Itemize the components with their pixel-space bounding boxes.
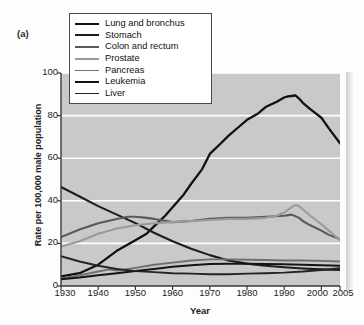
legend-label: Stomach	[105, 30, 142, 41]
legend-label: Colon and rectum	[105, 41, 178, 52]
x-tick-label: 1950	[125, 287, 146, 298]
legend-label: Liver	[105, 88, 125, 99]
x-tick-label: 1960	[162, 287, 183, 298]
legend-item-colon-and-rectum[interactable]: Colon and rectum	[75, 41, 206, 53]
legend-line-swatch	[75, 58, 99, 60]
legend-label: Lung and bronchus	[105, 18, 185, 29]
x-tick-label: 1930	[54, 287, 75, 298]
legend-item-liver[interactable]: Liver	[75, 88, 206, 100]
x-tick-label: 2000	[307, 287, 328, 298]
x-tick-label: 1990	[274, 287, 295, 298]
legend-label: Leukemia	[105, 76, 145, 87]
figure-panel: (a) Rate per 100,000 male population Yea…	[0, 0, 364, 325]
legend-line-swatch	[75, 93, 99, 94]
legend-line-swatch	[75, 23, 99, 25]
x-tick-label: 2005	[332, 287, 353, 298]
legend-line-swatch	[75, 81, 99, 83]
chart-legend[interactable]: Lung and bronchusStomachColon and rectum…	[69, 13, 212, 104]
x-tick-label: 1970	[199, 287, 220, 298]
legend-item-pancreas[interactable]: Pancreas	[75, 64, 206, 76]
legend-item-prostate[interactable]: Prostate	[75, 53, 206, 65]
x-tick-label: 1980	[236, 287, 257, 298]
legend-label: Prostate	[105, 53, 140, 64]
legend-item-lung-and-bronchus[interactable]: Lung and bronchus	[75, 18, 206, 30]
plot-background	[61, 73, 340, 286]
legend-line-swatch	[75, 46, 99, 48]
legend-label: Pancreas	[105, 65, 144, 76]
x-tick-label: 1940	[88, 287, 109, 298]
legend-line-swatch	[75, 34, 99, 36]
legend-item-stomach[interactable]: Stomach	[75, 30, 206, 42]
legend-item-leukemia[interactable]: Leukemia	[75, 76, 206, 88]
legend-line-swatch	[75, 70, 99, 71]
